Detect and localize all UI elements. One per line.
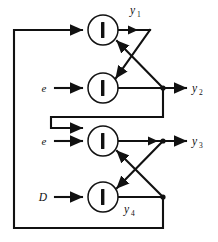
output-label-y1-sub: 1 xyxy=(137,10,141,19)
node3-to-node4-diagonal xyxy=(117,141,163,188)
output-label-y3-base: y xyxy=(191,135,198,148)
junction-dot-y4 xyxy=(160,194,165,199)
output-label-y1-base: y xyxy=(129,4,136,17)
output-label-y2: y 2 xyxy=(191,82,203,97)
output-label-y4-sub: 4 xyxy=(131,209,135,218)
diagram-canvas: e e D y 1 y 2 y 3 y 4 xyxy=(0,0,218,242)
node3-out-arrowhead xyxy=(148,137,158,146)
node-4 xyxy=(88,182,118,212)
output-label-y3: y 3 xyxy=(191,135,203,150)
node-3-bar-icon xyxy=(101,133,104,149)
output-label-y3-sub: 3 xyxy=(199,141,203,150)
node-4-bar-icon xyxy=(101,189,104,205)
signal-flow-diagram: e e D y 1 y 2 y 3 y 4 xyxy=(0,0,218,242)
input-label-e-lower: e xyxy=(42,135,47,147)
node-1 xyxy=(88,15,118,45)
node1-out-arrowhead xyxy=(128,26,138,35)
node4-to-node3-diagonal xyxy=(117,151,163,197)
node-2-bar-icon xyxy=(101,80,104,96)
input-label-e-upper: e xyxy=(42,82,47,94)
node-1-bar-icon xyxy=(101,22,104,38)
node4-output-wire xyxy=(117,151,166,200)
output-label-y4: y 4 xyxy=(123,203,135,218)
input-label-d: D xyxy=(38,191,48,203)
junction-dot-y2 xyxy=(160,85,165,90)
node-3 xyxy=(88,126,118,156)
output-label-y2-base: y xyxy=(191,82,198,95)
node2-output-wire xyxy=(117,41,186,91)
node-2 xyxy=(88,73,118,103)
output-label-y1: y 1 xyxy=(129,4,141,19)
output-label-y4-base: y xyxy=(123,203,130,216)
junction-dot-y3 xyxy=(160,138,165,143)
output-label-y2-sub: 2 xyxy=(199,88,203,97)
node2-to-node1-diagonal xyxy=(117,41,163,88)
